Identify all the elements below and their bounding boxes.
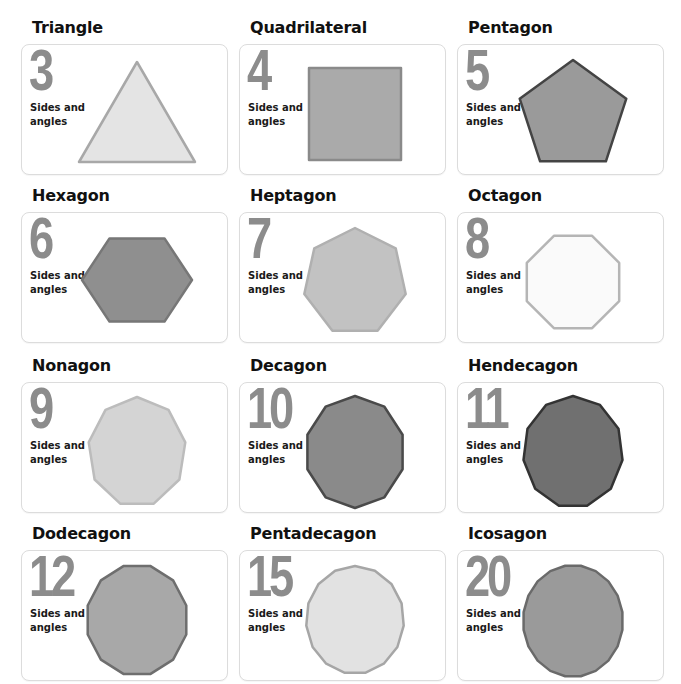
polygon-title: Heptagon	[250, 186, 336, 205]
polygon-title: Nonagon	[32, 356, 111, 375]
polygon-card-panel: 12 Sides and angles	[21, 550, 228, 681]
polygon-card-panel: 20 Sides and angles	[457, 550, 664, 681]
polygon-title: Pentadecagon	[250, 524, 376, 543]
polygon-card-panel: 8 Sides and angles	[457, 212, 664, 343]
polygon-title: Hexagon	[32, 186, 110, 205]
polygon-title: Hendecagon	[468, 356, 578, 375]
polygon-card-panel: 4 Sides and angles	[239, 44, 446, 175]
polygon-card-panel: 6 Sides and angles	[21, 212, 228, 343]
polygon-card-panel: 5 Sides and angles	[457, 44, 664, 175]
polygon-card-panel: 9 Sides and angles	[21, 382, 228, 513]
polygon-title: Pentagon	[468, 18, 553, 37]
polygon-card-panel: 3 Sides and angles	[21, 44, 228, 175]
polygon-card-panel: 10 Sides and angles	[239, 382, 446, 513]
octagon-icon	[458, 213, 663, 342]
dodecagon-icon	[22, 551, 227, 680]
polygon-title: Triangle	[32, 18, 103, 37]
icosagon-icon	[458, 551, 663, 680]
heptagon-icon	[240, 213, 445, 342]
quadrilateral-icon	[240, 45, 445, 174]
polygon-title: Icosagon	[468, 524, 547, 543]
polygon-title: Octagon	[468, 186, 542, 205]
pentagon-icon	[458, 45, 663, 174]
polygon-card-panel: 7 Sides and angles	[239, 212, 446, 343]
hendecagon-icon	[458, 383, 663, 512]
polygon-title: Dodecagon	[32, 524, 131, 543]
nonagon-icon	[22, 383, 227, 512]
polygon-card-panel: 11 Sides and angles	[457, 382, 664, 513]
polygon-card-panel: 15 Sides and angles	[239, 550, 446, 681]
polygon-title: Decagon	[250, 356, 327, 375]
hexagon-icon	[22, 213, 227, 342]
triangle-icon	[22, 45, 227, 174]
pentadecagon-icon	[240, 551, 445, 680]
decagon-icon	[240, 383, 445, 512]
polygon-title: Quadrilateral	[250, 18, 367, 37]
